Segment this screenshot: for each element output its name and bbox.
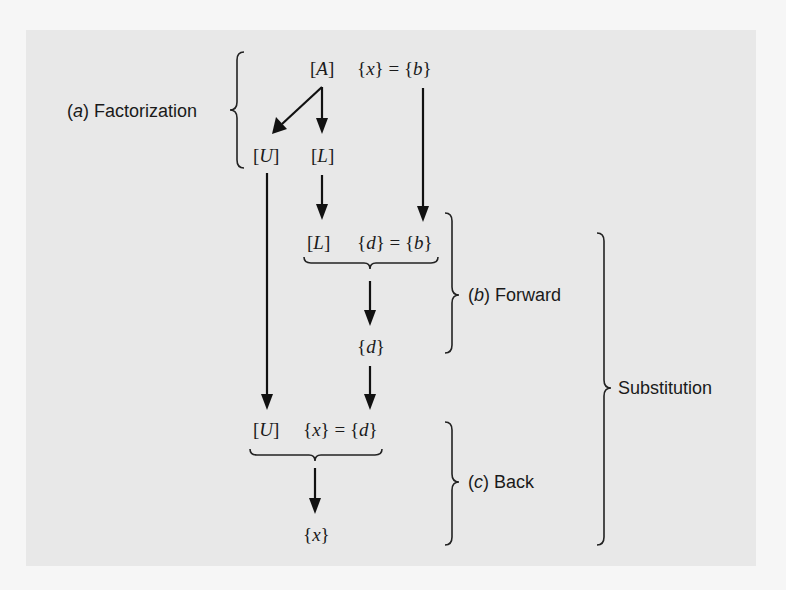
node-x-equals-b: {x} = {b} xyxy=(357,58,432,79)
substitution-label: Substitution xyxy=(618,378,712,398)
back-label: (c) Back xyxy=(468,472,535,492)
node-x-result: {x} xyxy=(303,524,330,545)
arrow-b-to-forward xyxy=(417,88,429,222)
forward-brace xyxy=(445,213,459,353)
substitution-brace xyxy=(597,233,611,545)
node-L-mid: [L] xyxy=(307,232,330,253)
node-d-result: {d} xyxy=(357,336,385,357)
back-underbrace xyxy=(250,449,382,461)
back-brace xyxy=(445,422,459,545)
lu-decomposition-diagram: [A] {x} = {b} [U] [L] (a) Factorization … xyxy=(0,0,786,590)
node-A: [A] xyxy=(310,58,334,79)
forward-label: (b) Forward xyxy=(468,285,561,305)
arrow-to-x xyxy=(309,468,321,514)
arrow-A-to-L xyxy=(316,87,328,134)
node-U-top: [U] xyxy=(253,145,279,166)
node-x-equals-d: {x} = {d} xyxy=(303,419,378,440)
arrow-d-to-back xyxy=(364,366,376,410)
forward-underbrace xyxy=(304,257,438,269)
node-U-low: [U] xyxy=(253,419,279,440)
arrow-to-d xyxy=(364,281,376,326)
arrow-A-to-U xyxy=(272,87,322,134)
factorization-label: (a) Factorization xyxy=(67,101,197,121)
node-d-equals-b: {d} = {b} xyxy=(357,232,433,253)
arrow-L-to-L xyxy=(316,175,328,220)
factorization-brace xyxy=(230,52,244,168)
node-L-top: [L] xyxy=(311,145,334,166)
arrow-U-to-U xyxy=(261,173,273,410)
